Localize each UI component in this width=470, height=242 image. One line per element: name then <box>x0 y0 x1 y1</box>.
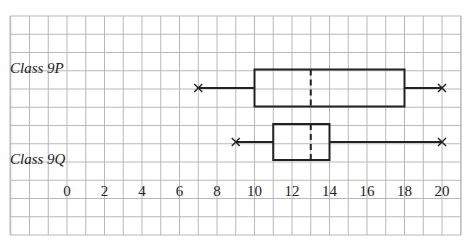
grid-lines <box>10 16 461 235</box>
x-axis-tick-labels: 02468101214161820 <box>63 183 449 199</box>
tick-label: 10 <box>247 183 262 199</box>
tick-label: 8 <box>213 183 221 199</box>
tick-label: 18 <box>397 183 412 199</box>
tick-label: 6 <box>176 183 184 199</box>
tick-label: 2 <box>101 183 109 199</box>
box-plot-chart: Class 9P Class 9Q 02468101214161820 <box>0 0 470 242</box>
tick-label: 0 <box>63 183 71 199</box>
label-class-9p: Class 9P <box>10 60 64 76</box>
tick-label: 12 <box>285 183 300 199</box>
box-plot-class-9q <box>232 124 446 160</box>
label-class-9q: Class 9Q <box>10 151 66 167</box>
box-plots <box>194 70 446 161</box>
tick-label: 16 <box>360 183 376 199</box>
tick-label: 14 <box>322 183 338 199</box>
tick-label: 20 <box>435 183 450 199</box>
box-plot-class-9p <box>194 70 446 107</box>
tick-label: 4 <box>138 183 146 199</box>
